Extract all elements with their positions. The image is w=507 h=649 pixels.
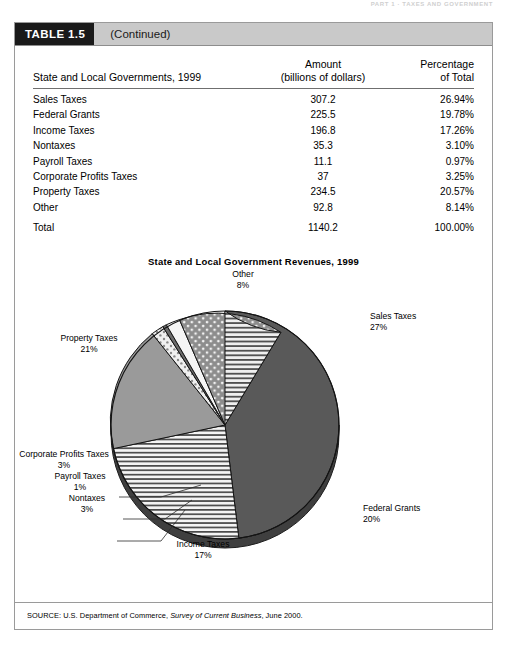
- row-amount: 234.5: [258, 184, 388, 199]
- row-label: Payroll Taxes: [33, 154, 258, 169]
- pie-label-income-taxes: Income Taxes 17%: [163, 539, 243, 561]
- row-percentage: 19.78%: [388, 107, 474, 122]
- table-number-badge: TABLE 1.5: [15, 23, 94, 45]
- row-amount: 225.5: [258, 107, 388, 122]
- row-percentage: 17.26%: [388, 123, 474, 138]
- table-column-headers: State and Local Governments, 1999 Amount…: [15, 46, 492, 84]
- table-row: Income Taxes 196.8 17.26%: [33, 123, 474, 138]
- pie-label-federal-grants: Federal Grants 20%: [363, 503, 420, 525]
- column-header-amount: Amount (billions of dollars): [258, 58, 388, 84]
- source-suffix: , June 2000.: [261, 611, 302, 620]
- source-divider: [15, 602, 492, 603]
- row-percentage: 26.94%: [388, 92, 474, 107]
- table-frame: TABLE 1.5 (Continued) State and Local Go…: [14, 22, 493, 630]
- table-row: Corporate Profits Taxes 37 3.25%: [33, 169, 474, 184]
- pie-label-income-taxes-pct: 17%: [163, 550, 243, 561]
- column-header-amount-line1: Amount: [258, 58, 388, 71]
- row-label: Nontaxes: [33, 138, 258, 153]
- total-percentage: 100.00%: [388, 220, 474, 235]
- row-label: Corporate Profits Taxes: [33, 169, 258, 184]
- table-row: Property Taxes 234.5 20.57%: [33, 184, 474, 199]
- row-label: Federal Grants: [33, 107, 258, 122]
- row-amount: 307.2: [258, 92, 388, 107]
- row-label: Sales Taxes: [33, 92, 258, 107]
- pie-label-corporate-profits-taxes-pct: 3%: [11, 460, 117, 471]
- running-head: PART 1 · TAXES AND GOVERNMENT: [371, 1, 493, 7]
- pie-label-nontaxes-name: Nontaxes: [69, 493, 105, 503]
- pie-label-property-taxes-pct: 21%: [43, 344, 135, 355]
- pie-label-sales-taxes-pct: 27%: [370, 322, 416, 333]
- table-continued-label: (Continued): [94, 23, 170, 45]
- chart-title: State and Local Government Revenues, 199…: [15, 256, 492, 267]
- table-row: Other 92.8 8.14%: [33, 200, 474, 215]
- total-amount: 1140.2: [258, 220, 388, 235]
- pie-label-federal-grants-pct: 20%: [363, 514, 420, 525]
- pie-label-federal-grants-name: Federal Grants: [363, 503, 420, 513]
- row-amount: 196.8: [258, 123, 388, 138]
- row-amount: 11.1: [258, 154, 388, 169]
- row-amount: 37: [258, 169, 388, 184]
- table-row: Payroll Taxes 11.1 0.97%: [33, 154, 474, 169]
- pie-label-other-name: Other: [232, 269, 254, 279]
- total-label: Total: [33, 220, 258, 235]
- pie-chart-svg: [15, 267, 492, 567]
- column-header-label: State and Local Governments, 1999: [33, 71, 258, 84]
- table-header-bar: TABLE 1.5 (Continued): [15, 23, 492, 46]
- pie-label-income-taxes-name: Income Taxes: [177, 539, 230, 549]
- row-percentage: 3.10%: [388, 138, 474, 153]
- pie-label-payroll-taxes-pct: 1%: [41, 482, 119, 493]
- pie-chart: Other 8% Sales Taxes 27% Property Taxes …: [15, 267, 492, 567]
- table-row: Sales Taxes 307.2 26.94%: [33, 92, 474, 107]
- row-label: Other: [33, 200, 258, 215]
- row-percentage: 8.14%: [388, 200, 474, 215]
- pie-label-nontaxes: Nontaxes 3%: [57, 493, 117, 515]
- row-percentage: 3.25%: [388, 169, 474, 184]
- source-prefix: SOURCE: U.S. Department of Commerce,: [27, 611, 170, 620]
- table-row: Nontaxes 35.3 3.10%: [33, 138, 474, 153]
- pie-label-property-taxes: Property Taxes 21%: [43, 333, 135, 355]
- row-label: Property Taxes: [33, 184, 258, 199]
- pie-label-property-taxes-name: Property Taxes: [60, 333, 117, 343]
- table-body: Sales Taxes 307.2 26.94% Federal Grants …: [15, 89, 492, 236]
- row-percentage: 20.57%: [388, 184, 474, 199]
- row-amount: 92.8: [258, 200, 388, 215]
- row-label: Income Taxes: [33, 123, 258, 138]
- row-percentage: 0.97%: [388, 154, 474, 169]
- row-amount: 35.3: [258, 138, 388, 153]
- pie-label-other: Other 8%: [213, 269, 273, 291]
- pie-label-corporate-profits-taxes-name: Corporate Profits Taxes: [19, 449, 109, 459]
- pie-label-nontaxes-pct: 3%: [57, 504, 117, 515]
- source-note: SOURCE: U.S. Department of Commerce, Sur…: [27, 611, 303, 620]
- column-header-amount-line2: (billions of dollars): [258, 71, 388, 84]
- column-header-pct-line1: Percentage: [388, 58, 474, 71]
- pie-label-corporate-profits-taxes: Corporate Profits Taxes 3%: [11, 449, 117, 471]
- pie-label-sales-taxes: Sales Taxes 27%: [370, 311, 416, 333]
- pie-label-payroll-taxes-name: Payroll Taxes: [55, 471, 106, 481]
- column-header-pct-line2: of Total: [388, 71, 474, 84]
- table-row: Federal Grants 225.5 19.78%: [33, 107, 474, 122]
- table-row-total: Total 1140.2 100.00%: [33, 220, 474, 235]
- pie-label-payroll-taxes: Payroll Taxes 1%: [41, 471, 119, 493]
- source-publication: Survey of Current Business: [170, 611, 261, 620]
- pie-label-sales-taxes-name: Sales Taxes: [370, 311, 416, 321]
- pie-label-other-pct: 8%: [213, 280, 273, 291]
- column-header-percentage: Percentage of Total: [388, 58, 474, 84]
